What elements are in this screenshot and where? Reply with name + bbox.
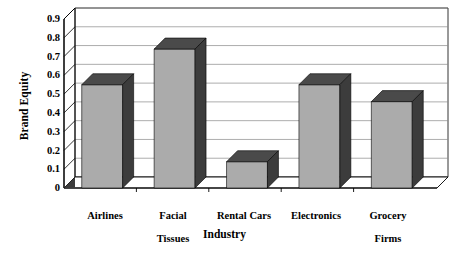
x-tick-line1: Facial [159,210,186,221]
x-tick-label-airlines: Airlines [68,198,142,221]
x-tick-line1: Airlines [87,210,123,221]
x-tick-line1: Grocery [369,210,406,221]
x-tick-line1: Rental Cars [217,210,271,221]
x-tick-label-rental-cars: Rental Cars [204,198,284,221]
x-tick-line1: Electronics [291,210,341,221]
x-tick-label-electronics: Electronics [276,198,356,221]
x-axis-tick-labels: Airlines Facial Tissues Rental Cars Elec… [0,0,449,257]
chart-root: Brand Equity 0.9 0.8 0.7 0.6 0.5 0.4 0.3… [0,0,449,257]
x-axis-title: Industry [0,228,449,240]
